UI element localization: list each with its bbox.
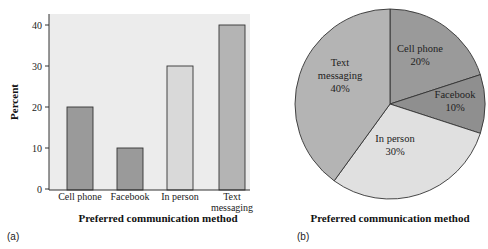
panel-label-b: (b)	[297, 231, 309, 242]
figure: 010203040 Cell phoneFacebookIn personTex…	[0, 0, 488, 249]
bar	[117, 148, 143, 190]
pie-label: messaging	[318, 70, 363, 81]
pie-label: Facebook	[435, 89, 477, 100]
y-tick-label: 10	[32, 143, 42, 154]
panel-label-a: (a)	[7, 231, 19, 242]
x-axis-label: Preferred communication method	[78, 212, 237, 224]
x-tick-label: Facebook	[111, 191, 150, 202]
y-axis-label: Percent	[8, 84, 20, 120]
pie-label: 10%	[445, 102, 465, 113]
pie-title: Preferred communication method	[310, 212, 469, 224]
x-tick-labels: Cell phoneFacebookIn personTextmessaging	[58, 191, 253, 213]
y-tick-label: 20	[32, 102, 42, 113]
bar	[219, 25, 245, 190]
bar	[67, 107, 93, 190]
x-tick-label: In person	[161, 191, 199, 202]
y-tick-label: 40	[32, 20, 42, 31]
pie-label: 40%	[330, 83, 350, 94]
pie-chart: Cell phone20%Facebook10%In person30%Text…	[295, 9, 485, 242]
x-tick-label: Cell phone	[58, 191, 102, 202]
pie-label: 20%	[410, 56, 430, 67]
pie-label: Cell phone	[397, 43, 443, 54]
pie-label: Text	[331, 57, 350, 68]
x-tick-label: Text	[223, 191, 241, 202]
pie-label: 30%	[385, 146, 405, 157]
y-tick-label: 0	[37, 184, 42, 195]
bar	[167, 66, 193, 190]
bar-chart: 010203040 Cell phoneFacebookIn personTex…	[7, 14, 253, 242]
y-ticks: 010203040	[32, 20, 49, 195]
y-tick-label: 30	[32, 61, 42, 72]
pie-label: In person	[375, 133, 415, 144]
